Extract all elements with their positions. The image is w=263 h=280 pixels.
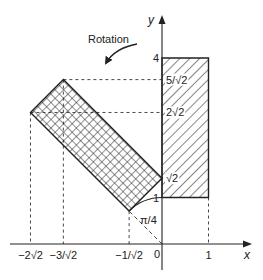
- x-tick-labels: −2√2−3/√2−1/√21: [18, 249, 211, 261]
- x-axis-arrow-icon: [243, 241, 252, 248]
- origin-label: 0: [154, 248, 160, 260]
- x-tick-label: −3/√2: [49, 249, 77, 261]
- x-tick-label: −1/√2: [115, 249, 143, 261]
- y-tick-label: √2: [166, 172, 178, 184]
- x-tick-label: −2√2: [18, 249, 43, 261]
- rotation-label: Rotation: [88, 33, 129, 45]
- y-axis-arrow-icon: [159, 15, 166, 24]
- rotated-rectangle-crosshatch: [31, 80, 163, 212]
- x-tick-label: 1: [205, 249, 211, 261]
- y-axis-label: y: [147, 13, 155, 27]
- y-tick-label: 5/√2: [166, 74, 187, 86]
- y-tick-label: 4: [153, 52, 159, 64]
- rotation-diagram: x y 0 −2√2−3/√2−1/√21 45/√22√2√21 π/4 Ro…: [0, 0, 263, 280]
- y-tick-label: 2√2: [166, 106, 184, 118]
- rotation-arrow-icon: [106, 44, 137, 63]
- angle-label: π/4: [140, 214, 157, 226]
- x-axis-label: x: [243, 248, 251, 262]
